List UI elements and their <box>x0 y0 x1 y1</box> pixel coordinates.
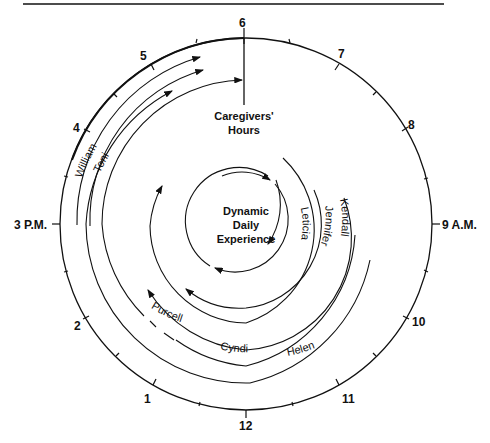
hour-label-4: 4 <box>73 121 80 135</box>
name-purcell: Purcell <box>150 299 185 324</box>
hour-label-6: 6 <box>239 16 246 30</box>
caregiver-clock-diagram: 6 7 8 9 A.M. 10 11 12 1 2 3 P.M. 4 5 Car… <box>0 0 490 443</box>
hour-label-2: 2 <box>74 319 81 333</box>
diagram-canvas: 6 7 8 9 A.M. 10 11 12 1 2 3 P.M. 4 5 Car… <box>0 0 490 443</box>
caregivers-hours-title-line2: Hours <box>228 124 260 136</box>
hour-label-7: 7 <box>338 47 345 61</box>
center-label-line3: Experience <box>217 233 276 245</box>
hour-label-10: 10 <box>412 315 426 329</box>
hour-label-8: 8 <box>408 118 415 132</box>
center-label-line1: Dynamic <box>223 205 269 217</box>
name-leticia: Leticia <box>299 206 313 242</box>
center-label-line2: Daily <box>233 219 260 231</box>
name-kendall: Kendall <box>338 198 352 238</box>
hour-label-5: 5 <box>140 49 147 63</box>
hour-label-12: 12 <box>239 419 253 433</box>
arc-william <box>77 57 200 225</box>
hour-label-11: 11 <box>342 392 355 406</box>
hour-label-3pm: 3 P.M. <box>14 218 47 232</box>
name-helen: Helen <box>285 339 315 358</box>
caregivers-hours-title-line1: Caregivers' <box>214 110 274 122</box>
hour-label-1: 1 <box>144 392 151 406</box>
hour-label-9am: 9 A.M. <box>442 218 477 232</box>
name-cyndi: Cyndi <box>220 340 249 355</box>
